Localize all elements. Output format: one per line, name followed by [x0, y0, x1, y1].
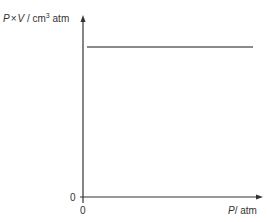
- x-axis-label: P/ atm: [228, 205, 257, 216]
- y-axis-arrow-icon: [81, 15, 86, 22]
- x-axis-arrow-icon: [256, 195, 263, 200]
- y-zero-label: 0: [70, 192, 76, 203]
- y-axis-label: P×V / cm3 atm: [3, 12, 69, 24]
- chart: P×V / cm3 atm P/ atm 0 0: [0, 0, 267, 222]
- y-label-p: P: [3, 13, 10, 24]
- x-zero-label: 0: [80, 205, 86, 216]
